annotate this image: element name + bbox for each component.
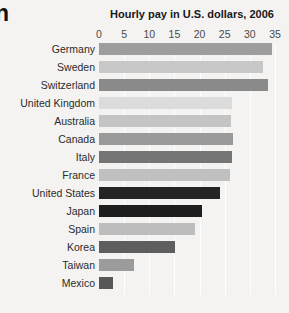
bar-row: Korea (99, 241, 275, 259)
plot-area: GermanySwedenSwitzerlandUnited KingdomAu… (99, 43, 275, 295)
bar-row: United States (99, 187, 275, 205)
bar-row: Japan (99, 205, 275, 223)
category-label: Japan (66, 205, 95, 218)
bar (99, 187, 220, 199)
chart-title: Hourly pay in U.S. dollars, 2006 (101, 8, 283, 21)
category-label: Spain (68, 223, 95, 236)
bar (99, 97, 232, 109)
page-edge-glyph-fragment: n (0, 2, 8, 25)
bar-row: Taiwan (99, 259, 275, 277)
category-label: Sweden (57, 61, 95, 74)
category-label: Switzerland (41, 79, 95, 92)
bar-row: United Kingdom (99, 97, 275, 115)
bar (99, 61, 263, 73)
bar-row: Switzerland (99, 79, 275, 97)
bar (99, 43, 272, 55)
bar (99, 223, 195, 235)
x-axis-tick-labels: 05101520253035 (99, 28, 275, 41)
x-tick-10: 10 (143, 28, 155, 41)
bar (99, 115, 231, 127)
category-label: Australia (54, 115, 95, 128)
category-label: Mexico (62, 277, 95, 290)
gridline-35 (275, 43, 276, 295)
category-label: United States (32, 187, 95, 200)
bar-row: Spain (99, 223, 275, 241)
x-tick-0: 0 (96, 28, 102, 41)
bar-row: Germany (99, 43, 275, 61)
bar-row: Australia (99, 115, 275, 133)
bar (99, 205, 202, 217)
category-label: Germany (52, 43, 95, 56)
bar-row: Sweden (99, 61, 275, 79)
bar (99, 277, 113, 289)
category-label: United Kingdom (20, 97, 95, 110)
category-label: France (62, 169, 95, 182)
bar (99, 133, 233, 145)
x-tick-30: 30 (244, 28, 256, 41)
bar-chart: n Hourly pay in U.S. dollars, 2006 05101… (0, 0, 289, 313)
bar (99, 241, 175, 253)
category-label: Taiwan (62, 259, 95, 272)
bar-row: France (99, 169, 275, 187)
bar (99, 151, 232, 163)
bar-row: Italy (99, 151, 275, 169)
x-tick-15: 15 (169, 28, 181, 41)
category-label: Italy (76, 151, 95, 164)
x-tick-20: 20 (194, 28, 206, 41)
bar-row: Canada (99, 133, 275, 151)
category-label: Canada (58, 133, 95, 146)
bar (99, 259, 134, 271)
x-tick-5: 5 (121, 28, 127, 41)
category-label: Korea (67, 241, 95, 254)
x-tick-35: 35 (269, 28, 281, 41)
bar (99, 169, 230, 181)
x-tick-25: 25 (219, 28, 231, 41)
bar (99, 79, 268, 91)
bar-row: Mexico (99, 277, 275, 295)
